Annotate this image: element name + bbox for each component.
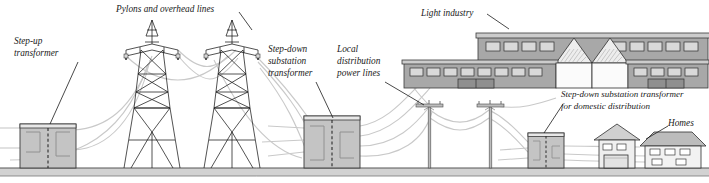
- label-line: Homes: [667, 118, 694, 128]
- label-line: substation: [268, 56, 307, 66]
- label-line: power lines: [336, 68, 381, 78]
- label-step-down-substation-transformer: Step-down substation transformer: [268, 44, 313, 78]
- diagram-canvas: Step-up transformer Pylons and overhead …: [0, 0, 709, 183]
- crossarm: [477, 104, 504, 107]
- ground-line: [0, 168, 709, 176]
- label-line: distribution: [337, 56, 381, 66]
- label-line: Step-down substation transformer: [561, 89, 684, 99]
- factory-upper-roof: [476, 33, 709, 38]
- garage-door: [604, 155, 628, 168]
- step-up-transformer-building: [20, 124, 76, 168]
- label-line: Step-up: [14, 36, 43, 46]
- power-distribution-diagram: Step-up transformer Pylons and overhead …: [0, 0, 709, 183]
- label-line: transformer: [268, 68, 313, 78]
- label-line: transformer: [14, 48, 59, 58]
- step-down-substation-building: [304, 116, 360, 168]
- domestic-substation-building: [528, 133, 564, 168]
- label-line: for domestic distribution: [561, 101, 651, 111]
- crossarm: [416, 104, 443, 107]
- windows-upper: [650, 149, 690, 155]
- label-line: Light industry: [420, 8, 474, 18]
- label-pylons-and-overhead-lines: Pylons and overhead lines: [115, 4, 215, 14]
- label-light-industry: Light industry: [420, 8, 474, 18]
- label-homes: Homes: [667, 118, 694, 128]
- label-line: Step-down: [268, 44, 308, 54]
- factory-bay-right: [592, 63, 628, 88]
- label-line: Local: [336, 44, 359, 54]
- factory-bay-left: [556, 63, 592, 88]
- label-line: Pylons and overhead lines: [115, 4, 215, 14]
- house-large: [640, 132, 706, 168]
